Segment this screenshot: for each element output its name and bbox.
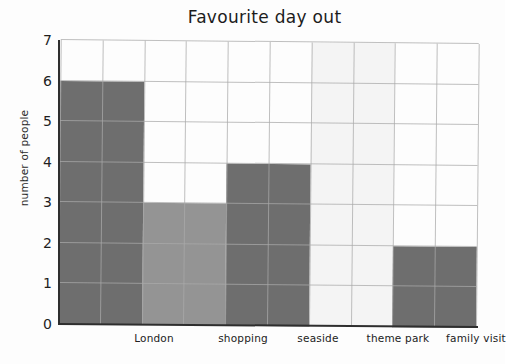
y-tick-label: 3 bbox=[26, 195, 52, 209]
y-tick-label: 2 bbox=[26, 236, 52, 250]
x-tick-label: family visit bbox=[376, 332, 510, 344]
y-tick-label: 7 bbox=[26, 33, 52, 47]
y-tick-label: 6 bbox=[26, 74, 52, 88]
plot-area bbox=[58, 40, 476, 324]
x-axis-tick-labels: Londonshoppingseasidetheme parkfamily vi… bbox=[58, 332, 478, 354]
y-axis-line bbox=[58, 40, 60, 325]
y-tick-label: 0 bbox=[26, 317, 52, 331]
chart-title: Favourite day out bbox=[12, 7, 510, 27]
y-tick-label: 4 bbox=[26, 155, 52, 169]
plot-inner bbox=[58, 40, 479, 328]
y-tick-label: 1 bbox=[26, 276, 52, 290]
y-tick-label: 5 bbox=[26, 114, 52, 128]
y-axis-tick-labels: 01234567 bbox=[18, 0, 52, 364]
gridline-vertical bbox=[476, 44, 480, 328]
